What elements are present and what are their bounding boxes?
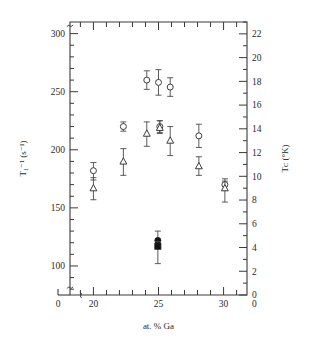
data-point (195, 157, 202, 176)
marker-open-circle (196, 133, 202, 139)
y-tick-label-left: 150 (51, 203, 66, 213)
y-tick-label-left: 200 (51, 145, 66, 155)
marker-open-circle (120, 124, 126, 130)
y-tick-label-left: 100 (51, 261, 66, 271)
marker-open-triangle (120, 158, 127, 164)
data-point (120, 122, 126, 131)
y-tick-label-right: 10 (252, 172, 262, 182)
axis-break-squiggle (67, 287, 73, 289)
data-point (155, 242, 161, 264)
marker-open-triangle (143, 130, 150, 136)
x-tick-label: 30 (219, 299, 229, 309)
x-axis: 202530 (80, 22, 236, 309)
marker-open-circle (167, 84, 173, 90)
x-tick-label: 20 (89, 299, 99, 309)
figure-canvas: 202530 100150200250300 02468101214161820… (0, 0, 310, 343)
data-point (167, 78, 173, 97)
y-tick-label-right: 16 (252, 100, 262, 110)
x-tick-label: 25 (154, 299, 164, 309)
marker-filled-square (155, 243, 161, 249)
axis-break-squiggle (80, 292, 82, 298)
data-point (143, 122, 150, 146)
y-axis-label-left: T₁⁻¹ (s⁻¹) (18, 141, 28, 177)
y-tick-label-right: 6 (252, 219, 257, 229)
y-tick-label-left: 250 (51, 87, 66, 97)
data-point (167, 127, 174, 156)
marker-open-circle (90, 168, 96, 174)
marker-open-circle (156, 79, 162, 85)
y-tick-label-right: 20 (252, 53, 262, 63)
data-point (120, 149, 127, 176)
marker-open-triangle (167, 137, 174, 143)
data-point (144, 71, 150, 90)
marker-open-triangle (195, 162, 202, 168)
y2-origin-label: 0 (252, 299, 257, 309)
y-tick-label-left: 300 (51, 29, 66, 39)
data-point (90, 178, 97, 200)
y-tick-label-right: 22 (252, 29, 262, 39)
y-tick-label-right: 12 (252, 148, 262, 158)
y-tick-label-right: 2 (252, 267, 257, 277)
y-tick-label-right: 18 (252, 77, 262, 87)
data-point (156, 70, 162, 96)
axis-break-marks: 00 (56, 25, 257, 309)
axis-break-squiggle (67, 25, 73, 27)
marker-open-triangle (90, 185, 97, 191)
scatter-plot: 202530 100150200250300 02468101214161820… (0, 0, 310, 343)
y-tick-label-right: 4 (252, 243, 257, 253)
x-origin-label: 0 (56, 299, 61, 309)
plot-frame (70, 22, 247, 295)
y-tick-label-right: 14 (252, 124, 262, 134)
y-axis-label-right: Tᴄ (°K) (280, 144, 290, 172)
y-axis-right: 0246810121416182022 (239, 22, 262, 300)
data-points-layer (90, 70, 228, 264)
y-tick-label-right: 8 (252, 195, 257, 205)
data-point (196, 124, 202, 147)
y-axis-left: 100150200250300 (51, 29, 78, 289)
x-axis-label: at. % Ga (143, 321, 174, 331)
marker-open-circle (144, 77, 150, 83)
